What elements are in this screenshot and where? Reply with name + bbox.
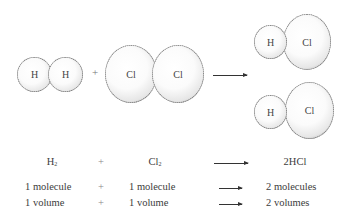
atom-label: Cl (126, 69, 135, 80)
plus-sign: + (98, 156, 104, 167)
chlorine-atom: Cl (285, 82, 334, 139)
chlorine-atom: Cl (283, 14, 331, 70)
atom-label: Cl (173, 69, 182, 80)
reactant1-volume: 1 volume (25, 197, 64, 208)
product-molecules: 2 molecules (266, 181, 316, 192)
plus-sign: + (92, 66, 98, 78)
element-symbol: Cl (149, 156, 159, 167)
plus-sign: + (98, 197, 104, 208)
element-symbol: H (47, 156, 55, 167)
chlorine-atom: Cl (152, 45, 204, 103)
reactant2-molecules: 1 molecule (129, 181, 175, 192)
chlorine-atom: Cl (105, 45, 157, 103)
reactant2-volume: 1 volume (129, 197, 168, 208)
subscript: 2 (158, 161, 161, 167)
formula-h2: H2 (47, 156, 58, 167)
hydrogen-atom: H (254, 95, 287, 129)
reactant1-molecules: 1 molecule (25, 181, 71, 192)
formula-2hcl: 2HCl (284, 156, 307, 167)
plus-sign: + (98, 181, 104, 192)
hydrogen-atom: H (17, 57, 52, 92)
atom-label: H (267, 107, 274, 118)
atom-label: Cl (305, 105, 314, 116)
hydrogen-atom: H (48, 57, 83, 92)
product-volume: 2 volumes (266, 197, 309, 208)
reaction-arrow (213, 75, 247, 76)
atom-label: H (62, 69, 69, 80)
hydrogen-atom: H (254, 25, 287, 59)
subscript: 2 (54, 161, 57, 167)
atom-label: H (31, 69, 38, 80)
formula-cl2: Cl2 (149, 156, 162, 167)
reaction-arrow (219, 188, 242, 189)
reaction-arrow (219, 204, 242, 205)
reaction-arrow (214, 163, 248, 164)
atom-label: H (267, 37, 274, 48)
atom-label: Cl (302, 37, 311, 48)
